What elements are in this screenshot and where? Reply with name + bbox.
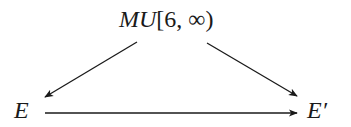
node-interval: [6, ∞) xyxy=(156,6,213,32)
node-e-prime: E′ xyxy=(307,98,327,122)
node-e: E xyxy=(14,98,29,122)
node-mu-symbol: MU xyxy=(119,6,156,32)
commutative-diagram: MU[6, ∞) E E′ xyxy=(0,0,351,127)
arrow-top-to-right xyxy=(207,43,297,96)
arrow-top-to-left xyxy=(45,42,137,97)
node-mu-interval: MU[6, ∞) xyxy=(119,7,213,31)
